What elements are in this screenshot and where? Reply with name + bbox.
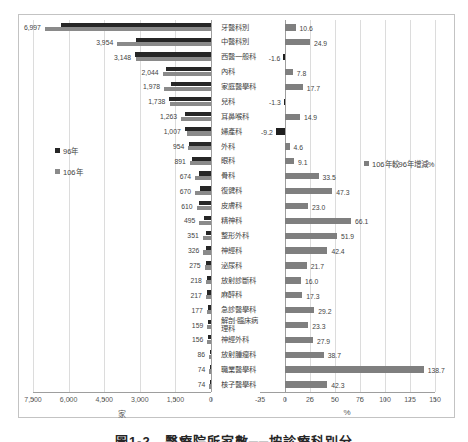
- bar-growth: [285, 381, 327, 387]
- bar-106: [207, 340, 211, 344]
- left-gridline: [69, 20, 70, 392]
- bar-growth-value-label: 23.0: [312, 205, 325, 212]
- right-tick-label: 25: [306, 396, 314, 403]
- bar-growth: [285, 292, 302, 298]
- bar-growth: [285, 69, 293, 75]
- category-axis: 牙醫科別中醫科別西醫一般科內科家庭醫學科兒科耳鼻喉科婦產科外科眼科骨科復健科皮膚…: [221, 20, 265, 392]
- bar-106: [207, 310, 211, 314]
- bar-106-value-label: 159: [192, 323, 203, 330]
- legend-label-96: 96年: [63, 145, 78, 156]
- left-zero-axis-line: [211, 20, 212, 392]
- bar-106-value-label: 1,738: [148, 99, 165, 106]
- left-tick-label: 3,000: [131, 396, 149, 403]
- legend-swatch-106-icon: [55, 169, 60, 174]
- category-label: 整形外科: [221, 228, 265, 243]
- figure-page: 6,9973,9543,1482,0441,9781,7381,2631,007…: [0, 0, 468, 442]
- bar-106-value-label: 351: [187, 233, 198, 240]
- category-label: 婦產科: [221, 124, 265, 139]
- right-tick-label: 75: [356, 396, 364, 403]
- bar-106: [164, 87, 211, 91]
- bar-growth: [285, 262, 307, 268]
- bar-growth: [285, 233, 337, 239]
- bar-growth-value-label: -1.6: [269, 56, 281, 63]
- bar-growth-value-label: 66.1: [355, 219, 368, 226]
- left-x-axis-title: 家: [118, 408, 126, 419]
- bar-106-value-label: 86: [197, 352, 205, 359]
- right-gridline: [360, 20, 361, 392]
- left-tick-label: 0: [209, 396, 213, 403]
- bar-106: [187, 131, 211, 135]
- category-label: 解剖‧臨床病理科: [221, 318, 265, 333]
- bar-growth-value-label: 9.1: [298, 160, 307, 167]
- bar-106: [209, 369, 211, 373]
- right-x-axis-line: [260, 392, 435, 393]
- bar-106: [188, 146, 211, 150]
- bar-106-value-label: 218: [190, 278, 201, 285]
- left-x-axis-ticks: 7,5006,0004,5003,0001,5000: [33, 396, 211, 405]
- bar-106-value-label: 891: [175, 159, 186, 166]
- right-gridline: [435, 20, 436, 392]
- bar-growth-value-label: 42.3: [331, 383, 344, 390]
- category-label: 神經科: [221, 243, 265, 258]
- bar-106: [209, 384, 211, 388]
- category-label: 眼科: [221, 154, 265, 169]
- chart-container: 6,9973,9543,1482,0441,9781,7381,2631,007…: [18, 14, 455, 418]
- right-legend: 106年較96年增減%: [364, 158, 435, 179]
- bar-106-value-label: 670: [180, 189, 191, 196]
- bar-106-value-label: 177: [191, 308, 202, 315]
- bar-growth: [285, 24, 296, 30]
- bar-growth-value-label: -1.3: [269, 100, 281, 107]
- bar-growth-negative: [276, 128, 285, 134]
- bar-growth-value-label: 23.3: [312, 324, 325, 331]
- bar-106-value-label: 954: [173, 144, 184, 151]
- category-label: 精神科: [221, 213, 265, 228]
- bar-growth-value-label: 16.0: [305, 279, 318, 286]
- right-x-axis-ticks: -250255075100125150: [260, 396, 435, 405]
- left-gridline: [104, 20, 105, 392]
- legend-item-106: 106年: [55, 166, 83, 177]
- category-label: 核子醫學科: [221, 377, 265, 392]
- bar-growth: [285, 322, 308, 328]
- bar-106: [209, 355, 211, 359]
- right-tick-label: 0: [283, 396, 287, 403]
- bar-106: [197, 206, 212, 210]
- bar-growth: [285, 188, 332, 194]
- bar-growth-value-label: 47.3: [336, 190, 349, 197]
- right-tick-label: 125: [404, 396, 416, 403]
- bar-106-value-label: 674: [180, 174, 191, 181]
- left-tick-label: 7,500: [24, 396, 42, 403]
- bar-growth: [285, 203, 308, 209]
- bar-106-value-label: 1,978: [143, 84, 160, 91]
- bar-106-value-label: 610: [181, 204, 192, 211]
- bar-growth-value-label: 14.9: [304, 115, 317, 122]
- bar-106: [206, 280, 211, 284]
- left-tick-label: 4,500: [95, 396, 113, 403]
- bar-growth-value-label: 51.9: [341, 234, 354, 241]
- bar-106: [163, 72, 212, 76]
- bar-growth-value-label: 29.2: [318, 309, 331, 316]
- bar-106-value-label: 2,044: [141, 70, 158, 77]
- bar-growth: [285, 173, 319, 179]
- bar-growth-value-label: -9.2: [261, 130, 273, 137]
- right-gridline: [335, 20, 336, 392]
- category-label: 牙醫科別: [221, 20, 265, 35]
- bar-growth-value-label: 7.8: [297, 71, 306, 78]
- category-label: 放射診斷科: [221, 273, 265, 288]
- category-label: 復健科: [221, 184, 265, 199]
- bar-106: [136, 57, 211, 61]
- category-label: 職業醫學科: [221, 362, 265, 377]
- bar-growth: [285, 277, 301, 283]
- legend-label-106: 106年: [63, 166, 83, 177]
- right-gridline: [385, 20, 386, 392]
- bar-growth: [285, 352, 324, 358]
- category-label: 皮膚科: [221, 199, 265, 214]
- bar-growth: [285, 84, 303, 90]
- category-label: 外科: [221, 139, 265, 154]
- right-tick-label: 150: [429, 396, 441, 403]
- category-label: 放射腫瘤科: [221, 347, 265, 362]
- bar-growth-negative: [284, 99, 285, 105]
- bar-106-value-label: 74: [198, 382, 206, 389]
- left-tick-label: 6,000: [60, 396, 78, 403]
- bar-growth: [285, 247, 327, 253]
- bar-growth-value-label: 24.9: [314, 41, 327, 48]
